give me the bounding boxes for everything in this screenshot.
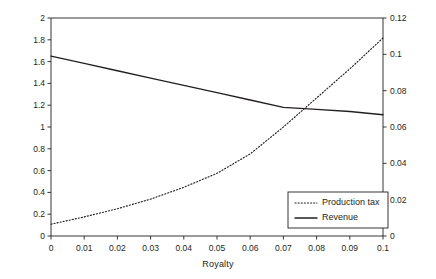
x-axis-title: Royalty — [0, 259, 436, 269]
legend-label-production-tax: Production tax — [322, 197, 380, 207]
plot-canvas — [0, 0, 436, 279]
legend-label-revenue: Revenue — [322, 212, 358, 222]
y-tick-label: 0.8 — [11, 144, 45, 154]
y-tick-label: 1.8 — [11, 35, 45, 45]
chart-figure: Dollars 00.20.40.60.811.21.41.61.82 00.0… — [0, 0, 436, 279]
y2-tick-label: 0 — [390, 231, 430, 241]
y2-tick-label: 0.12 — [390, 13, 430, 23]
y2-tick-label: 0.06 — [390, 122, 430, 132]
y-tick-label: 0 — [11, 231, 45, 241]
y-tick-label: 2 — [11, 13, 45, 23]
y2-tick-label: 0.04 — [390, 158, 430, 168]
x-tick-label: 0.02 — [99, 243, 135, 253]
y-tick-label: 0.2 — [11, 209, 45, 219]
y-tick-label: 1.6 — [11, 57, 45, 67]
x-tick-label: 0.04 — [166, 243, 202, 253]
y-tick-label: 1 — [11, 122, 45, 132]
y2-tick-label: 0.02 — [390, 195, 430, 205]
x-tick-label: 0.05 — [199, 243, 235, 253]
y2-tick-label: 0.1 — [390, 49, 430, 59]
x-tick-label: 0 — [33, 243, 69, 253]
y2-tick-label: 0.08 — [390, 86, 430, 96]
x-tick-label: 0.09 — [332, 243, 368, 253]
x-tick-label: 0.08 — [299, 243, 335, 253]
x-tick-label: 0.03 — [133, 243, 169, 253]
y-tick-label: 0.4 — [11, 187, 45, 197]
y-tick-label: 1.2 — [11, 100, 45, 110]
x-tick-label: 0.06 — [232, 243, 268, 253]
y-tick-label: 1.4 — [11, 78, 45, 88]
y-tick-label: 0.6 — [11, 166, 45, 176]
series-line-revenue — [51, 56, 383, 115]
x-tick-label: 0.1 — [365, 243, 401, 253]
x-tick-label: 0.07 — [265, 243, 301, 253]
x-tick-label: 0.01 — [66, 243, 102, 253]
